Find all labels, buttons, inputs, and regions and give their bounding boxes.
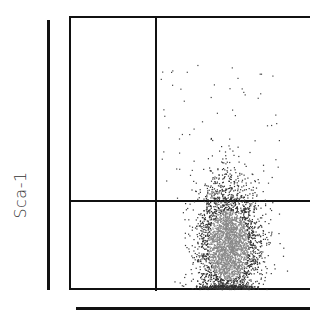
- scatter-plot: [0, 0, 310, 326]
- data-points: [161, 65, 288, 290]
